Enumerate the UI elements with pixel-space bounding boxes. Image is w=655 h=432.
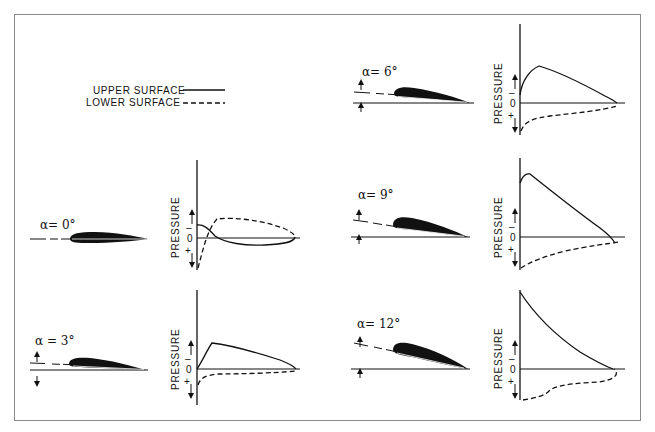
- airfoil: [353, 82, 474, 112]
- pressure-axis-label: PRESSURE: [493, 197, 504, 258]
- upper-surface-curve: [520, 292, 613, 369]
- minus-tick: –: [509, 87, 515, 98]
- plus-tick: +: [184, 376, 190, 387]
- plus-tick: +: [508, 110, 514, 121]
- plus-tick: +: [185, 245, 191, 256]
- airfoil: [351, 339, 470, 378]
- panel-alpha-6: α= 6° PRESSURE – 0 +: [353, 24, 625, 135]
- panel-alpha-9: α= 9° PRESSURE – 0 +: [351, 158, 625, 270]
- legend: UPPER SURFACE LOWER SURFACE: [86, 85, 225, 108]
- alpha-label: α= 0°: [40, 218, 76, 232]
- lower-surface-curve: [521, 242, 619, 268]
- minus-tick: –: [186, 222, 192, 233]
- pressure-plot: PRESSURE – 0 +: [170, 160, 300, 270]
- minus-tick: –: [509, 221, 515, 232]
- zero-tick: 0: [510, 98, 516, 109]
- minus-tick: –: [185, 353, 191, 364]
- panel-alpha-12: α= 12° PRESSURE – 0 +: [351, 290, 625, 400]
- zero-tick: 0: [187, 233, 193, 244]
- zero-tick: 0: [186, 364, 192, 375]
- upper-surface-curve: [520, 174, 615, 243]
- upper-surface-curve: [197, 225, 295, 245]
- plus-tick: +: [508, 376, 514, 387]
- alpha-label: α = 3°: [35, 334, 74, 348]
- alpha-label: α= 12°: [357, 317, 400, 331]
- airfoil: [351, 212, 470, 244]
- upper-surface-curve: [197, 343, 296, 369]
- pressure-plot: PRESSURE – 0 +: [493, 24, 625, 135]
- lower-surface-curve: [521, 106, 617, 131]
- panel-alpha-0: α= 0° PRESSURE – 0 +: [30, 160, 300, 270]
- plus-tick: +: [508, 244, 514, 255]
- airfoil-pressure-diagram: UPPER SURFACE LOWER SURFACE α= 0° PRESSU…: [0, 0, 655, 432]
- zero-tick: 0: [510, 232, 516, 243]
- minus-tick: –: [509, 353, 515, 364]
- pressure-axis-label: PRESSURE: [493, 328, 504, 389]
- legend-lower-label: LOWER SURFACE: [86, 97, 180, 108]
- lower-surface-curve: [523, 369, 616, 400]
- alpha-label: α= 9°: [358, 188, 394, 202]
- pressure-plot: PRESSURE – 0 +: [493, 290, 625, 400]
- pressure-axis-label: PRESSURE: [493, 63, 504, 124]
- airfoil: [30, 232, 148, 243]
- upper-surface-curve: [520, 66, 617, 103]
- pressure-plot: PRESSURE – 0 +: [493, 158, 625, 270]
- pressure-axis-label: PRESSURE: [170, 197, 181, 258]
- pressure-plot: PRESSURE – 0 +: [170, 290, 300, 405]
- panel-alpha-3: α = 3° PRESSURE – 0 +: [30, 290, 300, 405]
- airfoil: [30, 354, 148, 384]
- pressure-axis-label: PRESSURE: [170, 329, 181, 390]
- alpha-label: α= 6°: [362, 65, 398, 79]
- lower-surface-curve: [198, 371, 296, 385]
- legend-upper-label: UPPER SURFACE: [93, 85, 185, 96]
- zero-tick: 0: [510, 364, 516, 375]
